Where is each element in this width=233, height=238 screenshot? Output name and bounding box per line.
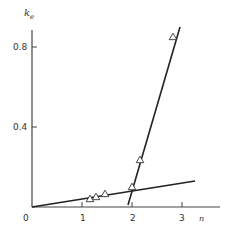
steep-fit-line: [128, 27, 180, 205]
x-tick-label-1: 1: [80, 214, 86, 223]
fit-lines: [32, 27, 195, 207]
data-points: [86, 33, 177, 201]
y-tick-label-0.4: 0.4: [13, 123, 27, 132]
origin-label: 0: [23, 214, 29, 223]
x-axis-label: n: [199, 215, 204, 223]
x-tick-label-2: 2: [130, 214, 136, 223]
chart-plot-area: [0, 0, 233, 238]
shallow-fit-line: [32, 181, 195, 207]
y-axis-label-sub: e: [30, 13, 34, 21]
triangle-marker-icon: [101, 190, 109, 196]
axes: [32, 30, 220, 207]
y-tick-label-0.8: 0.8: [13, 43, 27, 52]
triangle-marker-icon: [169, 33, 177, 39]
x-tick-label-3: 3: [179, 214, 185, 223]
y-axis-label: ke: [24, 8, 34, 21]
